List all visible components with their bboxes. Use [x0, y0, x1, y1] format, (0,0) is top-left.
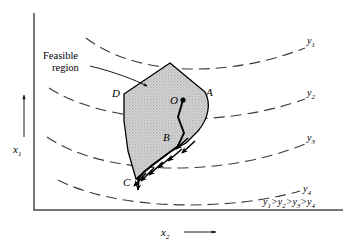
search-path-step-arrow-8 [138, 176, 139, 190]
contour-label-y1: y1 [306, 35, 315, 49]
vertex-label-C: C [123, 176, 131, 188]
feasible-region-label-line1: Feasible [43, 50, 78, 61]
x-axis-label: x2 [160, 226, 170, 241]
vertex-label-O: O [170, 94, 178, 106]
contour-label-y1-sub: 1 [311, 41, 315, 49]
x-axis-label-group: x2 [160, 226, 216, 241]
y-axis-label-group: x1 [12, 95, 24, 158]
contour-label-y4: y4 [302, 183, 311, 197]
figure-root: x1 x2 y1 y2 y3 y4 Feasible region [0, 0, 360, 245]
y-axis-label: x1 [12, 143, 21, 158]
ineq-op-1: > [271, 196, 278, 207]
feasible-region-diagram: x1 x2 y1 y2 y3 y4 Feasible region [0, 0, 360, 245]
contour-label-y3: y3 [306, 132, 315, 146]
ineq-sub-4: 4 [312, 202, 316, 210]
vertex-label-D: D [111, 87, 120, 99]
x-axis-label-sub: 2 [166, 233, 170, 241]
vertex-label-A: A [205, 86, 213, 98]
ineq-op-2: > [286, 196, 293, 207]
contour-label-y2: y2 [306, 87, 315, 101]
contour-ordering-inequality: y1>y2>y3>y4 [262, 196, 316, 210]
feasible-region-label-line2: region [52, 62, 80, 73]
vertex-label-B: B [163, 131, 170, 143]
feasible-region-leader-line [90, 66, 147, 86]
contour-curve-y1 [86, 38, 305, 69]
contour-label-y2-sub: 2 [311, 93, 315, 101]
y-axis-label-sub: 1 [18, 150, 22, 158]
contour-labels: y1 y2 y3 y4 [302, 35, 315, 197]
feasible-region-callout: Feasible region [43, 50, 147, 86]
ineq-op-3: > [300, 196, 307, 207]
contour-label-y3-sub: 3 [310, 138, 315, 146]
